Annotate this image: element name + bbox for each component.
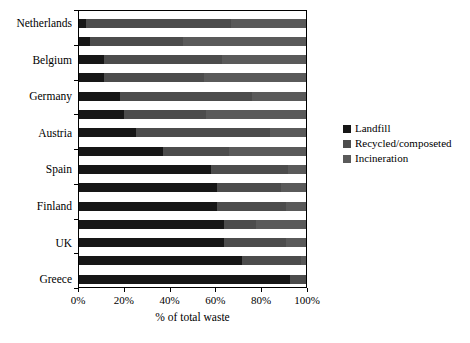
x-tick-label: 0% — [58, 294, 98, 306]
y-axis-tick — [74, 80, 78, 81]
x-axis-tick — [215, 288, 216, 292]
bar-segment-incineration — [222, 55, 306, 64]
category-label-germany: Germany — [0, 91, 72, 102]
bar-segment-recycled-composeted — [136, 128, 270, 137]
bar-segment-landfill — [79, 55, 104, 64]
x-tick-label: 20% — [104, 294, 144, 306]
bar-row — [79, 220, 306, 229]
bar-row — [79, 147, 306, 156]
category-label-uk: UK — [0, 238, 72, 249]
landfill-swatch-icon — [343, 125, 351, 133]
bar-segment-landfill — [79, 73, 104, 82]
bar-row — [79, 202, 306, 211]
bar-segment-recycled-composeted — [163, 147, 229, 156]
bar-row — [79, 128, 306, 137]
bar-segment-landfill — [79, 165, 211, 174]
x-axis-tick — [78, 288, 79, 292]
legend-item-landfill: Landfill — [343, 121, 452, 136]
bar-segment-incineration — [281, 183, 306, 192]
y-axis-tick — [74, 253, 78, 254]
bar-segment-landfill — [79, 92, 120, 101]
bar-row — [79, 238, 306, 247]
legend: Landfill Recycled/composeted Incineratio… — [343, 121, 452, 166]
bar-row — [79, 256, 306, 265]
bar-segment-recycled-composeted — [104, 73, 204, 82]
bar-segment-landfill — [79, 183, 217, 192]
bar-segment-recycled-composeted — [224, 238, 285, 247]
bar-segment-landfill — [79, 37, 90, 46]
x-tick-label: 80% — [241, 294, 281, 306]
bar-segment-recycled-composeted — [224, 220, 256, 229]
category-label-belgium: Belgium — [0, 55, 72, 66]
bar-segment-incineration — [231, 19, 306, 28]
bar-segment-landfill — [79, 128, 136, 137]
bar-segment-landfill — [79, 220, 224, 229]
category-label-finland: Finland — [0, 201, 72, 212]
y-axis-tick — [74, 184, 78, 185]
bar-segment-landfill — [79, 202, 217, 211]
y-axis-tick — [74, 45, 78, 46]
bar-segment-incineration — [204, 73, 306, 82]
bar-segment-incineration — [183, 37, 306, 46]
bar-row — [79, 92, 306, 101]
legend-item-incineration: Incineration — [343, 151, 452, 166]
bar-row — [79, 19, 306, 28]
category-label-austria: Austria — [0, 128, 72, 139]
bar-segment-recycled-composeted — [290, 275, 306, 284]
category-label-greece: Greece — [0, 274, 72, 285]
bar-segment-incineration — [252, 92, 306, 101]
waste-chart-figure: NetherlandsBelgiumGermanyAustriaSpainFin… — [0, 0, 470, 343]
bar-segment-incineration — [206, 110, 306, 119]
bar-row — [79, 165, 306, 174]
bar-segment-landfill — [79, 147, 163, 156]
bar-segment-landfill — [79, 238, 224, 247]
bar-row — [79, 183, 306, 192]
x-axis-title: % of total waste — [78, 311, 307, 323]
y-axis-tick — [74, 149, 78, 150]
bar-row — [79, 275, 306, 284]
bar-segment-landfill — [79, 256, 242, 265]
bar-segment-landfill — [79, 110, 124, 119]
bar-segment-incineration — [256, 220, 306, 229]
y-axis-labels: NetherlandsBelgiumGermanyAustriaSpainFin… — [0, 0, 74, 300]
bar-segment-recycled-composeted — [217, 183, 281, 192]
legend-label-landfill: Landfill — [355, 123, 390, 134]
legend-label-incineration: Incineration — [355, 153, 408, 164]
x-axis-tick — [124, 288, 125, 292]
bar-row — [79, 55, 306, 64]
bar-row — [79, 110, 306, 119]
plot-area — [78, 10, 307, 288]
bar-segment-recycled-composeted — [242, 256, 301, 265]
x-tick-label: 100% — [287, 294, 327, 306]
x-axis-tick — [170, 288, 171, 292]
legend-label-recycled: Recycled/composeted — [355, 138, 452, 149]
bar-segment-recycled-composeted — [120, 92, 252, 101]
bar-segment-incineration — [270, 128, 306, 137]
y-axis-tick — [74, 10, 78, 11]
category-label-netherlands: Netherlands — [0, 18, 72, 29]
bar-segment-recycled-composeted — [90, 37, 183, 46]
x-axis-tick — [261, 288, 262, 292]
bar-segment-recycled-composeted — [86, 19, 231, 28]
bar-segment-recycled-composeted — [217, 202, 285, 211]
recycled-swatch-icon — [343, 140, 351, 148]
category-label-spain: Spain — [0, 164, 72, 175]
x-tick-label: 40% — [150, 294, 190, 306]
y-axis-tick — [74, 114, 78, 115]
bar-segment-recycled-composeted — [211, 165, 288, 174]
bar-segment-landfill — [79, 19, 86, 28]
x-tick-label: 60% — [195, 294, 235, 306]
bar-segment-incineration — [286, 202, 306, 211]
bar-segment-incineration — [229, 147, 306, 156]
y-axis-tick — [74, 219, 78, 220]
bar-row — [79, 37, 306, 46]
bar-row — [79, 73, 306, 82]
bar-segment-landfill — [79, 275, 290, 284]
x-axis-tick — [307, 288, 308, 292]
bar-segment-incineration — [286, 238, 306, 247]
bar-segment-recycled-composeted — [124, 110, 206, 119]
bar-segment-incineration — [301, 256, 306, 265]
incineration-swatch-icon — [343, 155, 351, 163]
legend-item-recycled: Recycled/composeted — [343, 136, 452, 151]
bar-segment-recycled-composeted — [104, 55, 222, 64]
